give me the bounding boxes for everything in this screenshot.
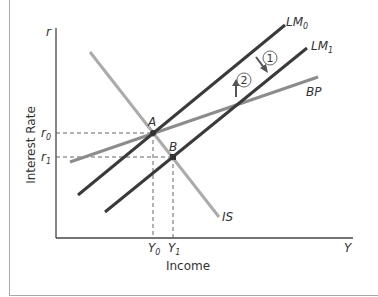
point-a-label: A [147, 115, 156, 129]
y1-tick-label: Y1 [168, 241, 180, 257]
point-a-marker [150, 130, 156, 136]
r0-tick-label: r0 [41, 126, 51, 142]
point-b-label: B [169, 140, 177, 154]
y-axis-title: Interest Rate [24, 106, 38, 184]
lm0-label: LM0 [286, 15, 308, 31]
y-axis-symbol: Y [344, 241, 353, 255]
point-b-marker [170, 154, 176, 160]
step2-label: 2 [241, 74, 248, 87]
bp-curve [70, 77, 318, 162]
r-axis-symbol: r [46, 25, 52, 39]
lm1-curve [105, 48, 307, 212]
y0-tick-label: Y0 [148, 241, 160, 257]
bp-label: BP [306, 85, 322, 99]
x-axis-title: Income [166, 259, 210, 273]
step1-label: 1 [267, 52, 274, 65]
lm1-label: LM1 [311, 39, 333, 55]
r1-tick-label: r1 [41, 150, 51, 166]
is-label: IS [222, 210, 234, 224]
